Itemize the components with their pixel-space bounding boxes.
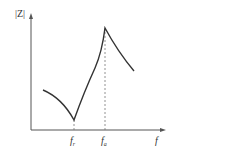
impedance-frequency-diagram: |Z| fr fa f [0, 0, 230, 151]
y-axis-arrow-icon [29, 13, 33, 19]
diagram-canvas [0, 0, 230, 151]
fa-tick-label: fa [101, 136, 107, 146]
x-axis-arrow-icon [160, 128, 166, 132]
impedance-curve [43, 28, 134, 120]
y-axis-label: |Z| [15, 9, 25, 19]
fr-tick-label: fr [70, 136, 75, 146]
x-axis-label: f [155, 136, 158, 146]
